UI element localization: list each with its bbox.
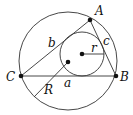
label-vertex-b: B — [119, 70, 129, 84]
triangle-diagram: A B C a b c r R — [0, 0, 133, 115]
label-vertex-a: A — [94, 4, 104, 18]
label-side-a: a — [64, 76, 71, 90]
vertex-a-dot — [88, 18, 93, 23]
vertex-c-dot — [19, 74, 24, 79]
circumcenter-dot — [66, 60, 71, 65]
label-circumradius: R — [43, 83, 53, 97]
label-vertex-c: C — [6, 70, 15, 84]
label-side-c: c — [103, 34, 110, 48]
triangle — [21, 20, 116, 76]
incenter-dot — [80, 52, 85, 57]
label-side-b: b — [48, 36, 56, 50]
label-inradius: r — [91, 41, 98, 55]
vertex-b-dot — [114, 74, 119, 79]
